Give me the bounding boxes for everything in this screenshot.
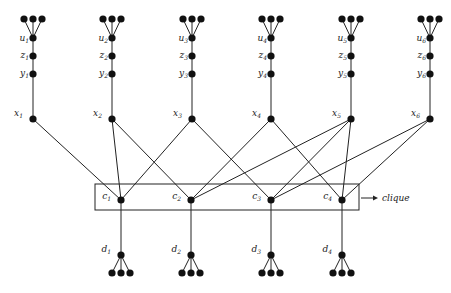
- y-node: [347, 70, 354, 77]
- y-node: [267, 70, 274, 77]
- leaf-node: [179, 15, 186, 22]
- leaf-node: [197, 15, 204, 22]
- leaf-node: [20, 15, 27, 22]
- y-label: y1: [19, 68, 29, 79]
- leaf-node: [126, 269, 133, 276]
- leaf-node: [117, 269, 124, 276]
- leaf-node: [276, 15, 283, 22]
- clique-box: [95, 184, 359, 210]
- leaf-node: [417, 15, 424, 22]
- y-label: y2: [98, 68, 108, 79]
- d-node: [267, 251, 274, 258]
- u-label: u5: [337, 33, 347, 44]
- leaf-node: [426, 15, 433, 22]
- z-label: z6: [416, 50, 426, 61]
- leaf-node: [258, 269, 265, 276]
- clique-annotation: clique: [361, 193, 410, 203]
- z-label: z1: [19, 50, 29, 61]
- leaf-node: [267, 269, 274, 276]
- clique-node: [338, 196, 345, 203]
- clique-node: [187, 196, 194, 203]
- leaf-node: [196, 269, 203, 276]
- leaf-node: [347, 269, 354, 276]
- u-node: [426, 34, 433, 41]
- u-label: u3: [178, 33, 188, 44]
- x-label: x3: [173, 108, 182, 119]
- leaf-node: [99, 15, 106, 22]
- y-label: y4: [257, 68, 267, 79]
- d-label: d4: [322, 244, 332, 255]
- graph-diagram: u1z1y1x1u2z2y2x2u3z3y3x3u4z4y4x4u5z5y5x5…: [0, 0, 451, 293]
- y-label: y6: [416, 68, 426, 79]
- z-node: [29, 52, 36, 59]
- z-label: z4: [257, 50, 267, 61]
- clique-node: [117, 196, 124, 203]
- u-label: u4: [257, 33, 267, 44]
- d-node: [187, 251, 194, 258]
- u-node: [347, 34, 354, 41]
- leaf-node: [338, 15, 345, 22]
- y-label: y5: [337, 68, 347, 79]
- leaf-node: [267, 15, 274, 22]
- x-c-edge: [121, 119, 192, 200]
- x-label: x5: [332, 108, 341, 119]
- x-label: x1: [14, 108, 23, 119]
- nodes-layer: [20, 15, 442, 276]
- x-c-edge: [33, 119, 121, 200]
- x-c-edge: [271, 119, 351, 200]
- u-label: u6: [416, 33, 426, 44]
- x-node: [108, 115, 115, 122]
- leaf-node: [329, 269, 336, 276]
- z-node: [347, 52, 354, 59]
- clique-label: clique: [382, 193, 410, 203]
- x-node: [188, 115, 195, 122]
- labels-layer: u1z1y1x1u2z2y2x2u3z3y3x3u4z4y4x4u5z5y5x5…: [14, 33, 426, 255]
- d-label: d2: [171, 244, 181, 255]
- z-node: [188, 52, 195, 59]
- x-c-edge: [342, 119, 430, 200]
- clique-node-label: c1: [102, 191, 111, 202]
- clique-node: [267, 196, 274, 203]
- x-node: [426, 115, 433, 122]
- d-node: [338, 251, 345, 258]
- leaf-node: [258, 15, 265, 22]
- y-label: y3: [178, 68, 188, 79]
- z-label: z5: [337, 50, 347, 61]
- y-node: [29, 70, 36, 77]
- leaf-node: [187, 269, 194, 276]
- x-label: x4: [252, 108, 261, 119]
- z-label: z2: [98, 50, 108, 61]
- d-node: [117, 251, 124, 258]
- x-c-edge: [271, 119, 430, 200]
- x-label: x2: [93, 108, 102, 119]
- x-label: x6: [411, 108, 420, 119]
- u-node: [108, 34, 115, 41]
- clique-node-label: c2: [172, 191, 181, 202]
- u-node: [29, 34, 36, 41]
- leaf-node: [188, 15, 195, 22]
- y-node: [188, 70, 195, 77]
- x-c-edge: [191, 119, 351, 200]
- u-node: [188, 34, 195, 41]
- clique-node-label: c4: [323, 191, 332, 202]
- leaf-node: [435, 15, 442, 22]
- x-node: [267, 115, 274, 122]
- d-label: d1: [101, 244, 111, 255]
- y-node: [426, 70, 433, 77]
- d-label: d3: [251, 244, 261, 255]
- leaf-node: [356, 15, 363, 22]
- leaf-node: [178, 269, 185, 276]
- leaf-node: [276, 269, 283, 276]
- z-node: [426, 52, 433, 59]
- z-label: z3: [178, 50, 188, 61]
- leaf-node: [117, 15, 124, 22]
- arrowhead-icon: [373, 196, 378, 201]
- u-label: u2: [98, 33, 108, 44]
- leaf-node: [108, 15, 115, 22]
- x-node: [29, 115, 36, 122]
- leaf-node: [108, 269, 115, 276]
- leaf-node: [347, 15, 354, 22]
- z-node: [267, 52, 274, 59]
- u-label: u1: [19, 33, 29, 44]
- z-node: [108, 52, 115, 59]
